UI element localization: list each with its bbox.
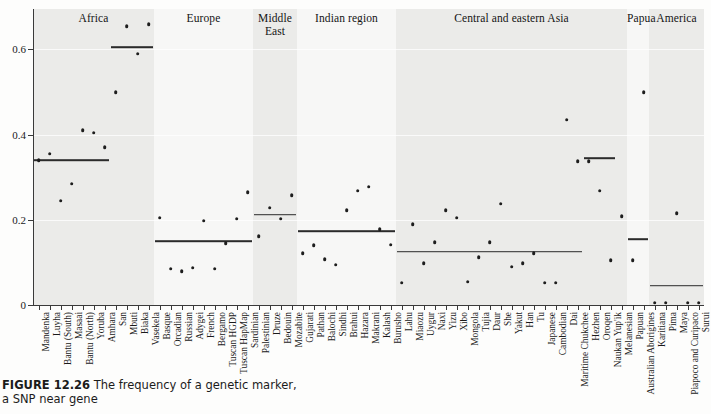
data-point: [235, 217, 239, 221]
data-point: [323, 257, 327, 261]
x-tick: [688, 305, 689, 310]
data-point: [169, 267, 173, 271]
x-tick: [193, 305, 194, 310]
x-tick: [303, 305, 304, 310]
group-mean-line: [155, 240, 253, 242]
x-tick: [116, 305, 117, 310]
x-tick-label: Pathan: [317, 312, 326, 338]
x-tick-label: Sardinian: [251, 312, 260, 348]
group-mean-line: [628, 238, 649, 240]
group-band-america: [649, 9, 704, 305]
x-tick-label: Tuscan HapMap: [240, 312, 249, 374]
y-gridline: [33, 135, 704, 136]
data-point: [202, 219, 206, 223]
x-tick: [611, 305, 612, 310]
x-tick-label: Hazara: [361, 312, 370, 339]
x-tick-label: Palestinian: [262, 312, 271, 353]
x-tick: [281, 305, 282, 310]
data-point: [268, 206, 272, 210]
x-tick-label: Bedouin: [284, 312, 293, 344]
x-tick-label: Piapoco and Curipaco: [691, 312, 700, 395]
x-tick: [72, 305, 73, 310]
x-tick: [314, 305, 315, 310]
y-tick-label: 0.2: [2, 214, 26, 226]
data-point: [290, 193, 294, 197]
data-point: [180, 269, 184, 273]
x-tick: [358, 305, 359, 310]
x-tick: [589, 305, 590, 310]
data-point: [543, 281, 547, 285]
x-tick: [215, 305, 216, 310]
x-tick-label: Melanesian: [625, 312, 634, 355]
x-tick-label: Papuan: [636, 312, 645, 340]
y-tick: [28, 135, 33, 136]
data-point: [510, 265, 514, 269]
data-point: [620, 215, 624, 219]
group-band-middle-east: [253, 9, 297, 305]
group-header-label: Central and eastern Asia: [396, 9, 627, 25]
y-gridline: [33, 220, 704, 221]
x-tick-label: Naukan Yup'ik: [614, 312, 623, 367]
x-tick-label: Balochi: [328, 312, 337, 341]
x-tick-label: Gujarati: [306, 312, 315, 343]
data-point: [345, 209, 349, 213]
data-point: [675, 212, 679, 216]
x-tick: [369, 305, 370, 310]
x-tick-label: Biaka: [141, 312, 150, 334]
x-tick-label: Karitiana: [658, 312, 667, 347]
data-point: [631, 258, 635, 262]
x-tick-label: Pima: [669, 312, 678, 331]
x-tick: [424, 305, 425, 310]
x-tick: [545, 305, 546, 310]
x-tick: [501, 305, 502, 310]
data-point: [554, 281, 558, 285]
y-axis-line: [33, 9, 34, 305]
x-tick-label: Maya: [680, 312, 689, 333]
x-tick-label: French: [207, 312, 216, 338]
x-tick: [633, 305, 634, 310]
x-tick: [556, 305, 557, 310]
data-point: [312, 244, 316, 248]
x-tick: [644, 305, 645, 310]
x-tick-label: Orcadian: [174, 312, 183, 346]
x-tick-label: Oroqen: [603, 312, 612, 340]
x-tick-label: Bergamo: [218, 312, 227, 346]
y-tick-label: 0.6: [2, 43, 26, 55]
data-point: [488, 240, 492, 244]
data-point: [466, 280, 470, 284]
x-tick: [666, 305, 667, 310]
data-point: [191, 266, 195, 270]
x-tick-label: Sindhi: [339, 312, 348, 337]
x-tick: [446, 305, 447, 310]
x-tick-label: Basque: [163, 312, 172, 340]
x-tick: [523, 305, 524, 310]
x-tick: [226, 305, 227, 310]
x-tick: [248, 305, 249, 310]
data-point: [125, 24, 129, 28]
data-point: [378, 227, 382, 231]
data-point: [158, 216, 162, 220]
x-tick: [270, 305, 271, 310]
plot-area: AfricaEuropeMiddle EastIndian regionCent…: [33, 9, 704, 305]
x-tick-label: Yizu: [449, 312, 458, 330]
x-tick-label: She: [504, 312, 513, 326]
data-point: [224, 241, 228, 245]
x-tick-label: Dai: [570, 312, 579, 326]
x-tick: [468, 305, 469, 310]
y-tick-label: 0: [2, 299, 26, 311]
y-tick: [28, 49, 33, 50]
data-point: [576, 159, 580, 163]
x-tick: [380, 305, 381, 310]
data-point: [609, 258, 613, 262]
x-tick: [160, 305, 161, 310]
x-tick: [578, 305, 579, 310]
x-tick: [402, 305, 403, 310]
data-point: [367, 185, 371, 189]
data-point: [455, 216, 459, 220]
x-tick-label: Druze: [273, 312, 282, 335]
x-tick-label: Mozabite: [295, 312, 304, 347]
x-tick-label: Tu: [537, 312, 546, 322]
group-mean-line: [34, 159, 110, 161]
y-tick: [28, 220, 33, 221]
x-tick: [347, 305, 348, 310]
